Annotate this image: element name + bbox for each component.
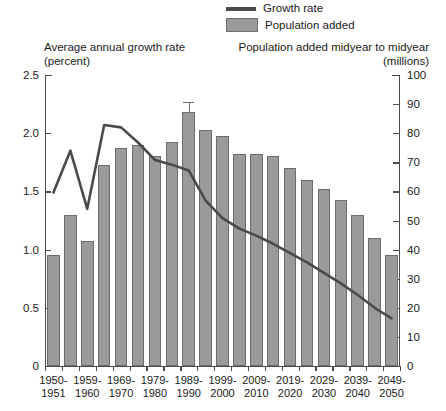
- x-axis-label: 1950- 1951: [39, 374, 67, 400]
- legend-item-growth-rate: Growth rate: [226, 2, 355, 15]
- line-series-growth-rate: [45, 75, 400, 367]
- annotation-cap: [183, 102, 194, 103]
- x-tick: [265, 366, 266, 371]
- right-tick-label: 90: [407, 98, 420, 110]
- right-tick-label: 30: [407, 273, 420, 285]
- left-tick-label: 2.5: [23, 69, 39, 81]
- left-tick-label: 2.0: [23, 127, 39, 139]
- x-tick: [231, 366, 232, 371]
- right-axis-title-line1: Population added midyear to midyear: [224, 40, 429, 54]
- x-axis-label: 1979- 1980: [141, 374, 169, 400]
- x-axis-label: 1969- 1970: [107, 374, 135, 400]
- x-tick: [349, 366, 350, 371]
- legend-label-growth-rate: Growth rate: [263, 2, 323, 15]
- x-axis-label: 2019- 2020: [276, 374, 304, 400]
- chart-legend: Growth rate Population added: [226, 2, 355, 32]
- line-swatch-icon: [226, 7, 256, 11]
- bar-swatch-icon: [226, 18, 258, 32]
- right-tick-label: 60: [407, 185, 420, 197]
- x-axis-label: 2029- 2030: [310, 374, 338, 400]
- left-axis-title-line1: Average annual growth rate: [44, 40, 185, 54]
- x-tick: [79, 366, 80, 371]
- x-tick: [146, 366, 147, 371]
- right-tick-label: 40: [407, 244, 420, 256]
- x-tick: [214, 366, 215, 371]
- right-axis-title: Population added midyear to midyear (mil…: [224, 40, 429, 68]
- x-tick: [400, 366, 401, 371]
- x-tick: [130, 366, 131, 371]
- legend-label-population-added: Population added: [265, 19, 355, 32]
- left-tick-label: 0: [33, 360, 39, 372]
- right-tick-label: 50: [407, 215, 420, 227]
- left-tick-label: 0.5: [23, 302, 39, 314]
- x-tick: [299, 366, 300, 371]
- x-axis-label: 1989- 1990: [175, 374, 203, 400]
- x-axis-label: 2009- 2010: [242, 374, 270, 400]
- right-tick-label: 80: [407, 127, 420, 139]
- right-tick-label: 70: [407, 156, 420, 168]
- x-tick: [180, 366, 181, 371]
- right-tick-label: 0: [407, 360, 413, 372]
- x-axis-label: 2039- 2040: [344, 374, 372, 400]
- right-tick-label: 10: [407, 331, 420, 343]
- x-axis-label: 1959- 1960: [73, 374, 101, 400]
- x-axis-label: 1999- 2000: [208, 374, 236, 400]
- x-tick: [45, 366, 46, 371]
- left-tick-label: 1.0: [23, 244, 39, 256]
- x-tick: [282, 366, 283, 371]
- right-tick-label: 100: [407, 69, 426, 81]
- x-tick: [96, 366, 97, 371]
- chart-plot-area: [45, 75, 400, 367]
- x-tick: [113, 366, 114, 371]
- left-axis-title: Average annual growth rate (percent): [44, 40, 185, 68]
- x-tick: [315, 366, 316, 371]
- x-tick: [248, 366, 249, 371]
- legend-item-population-added: Population added: [226, 18, 355, 32]
- x-axis-label: 2049- 2050: [377, 374, 405, 400]
- x-tick: [197, 366, 198, 371]
- x-tick: [163, 366, 164, 371]
- right-axis-title-line2: (millions): [224, 54, 429, 68]
- annotation-stem: [189, 102, 190, 112]
- left-axis-title-line2: (percent): [44, 54, 185, 68]
- growth-rate-polyline: [53, 125, 391, 318]
- x-tick: [383, 366, 384, 371]
- x-tick: [62, 366, 63, 371]
- left-tick-label: 1.5: [23, 185, 39, 197]
- x-tick: [332, 366, 333, 371]
- x-tick: [366, 366, 367, 371]
- right-tick-label: 20: [407, 302, 420, 314]
